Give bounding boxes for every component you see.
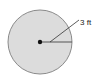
circle-diagram: 3 ft <box>0 0 96 77</box>
radius-label: 3 ft <box>80 18 92 27</box>
center-point <box>38 40 42 44</box>
